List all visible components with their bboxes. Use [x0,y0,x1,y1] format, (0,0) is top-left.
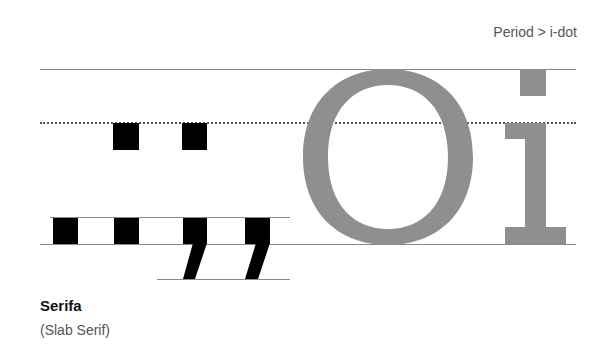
i-stem [525,123,546,244]
typeface-class: (Slab Serif) [40,322,110,338]
typeface-name: Serifa [40,297,82,314]
i-bottom-serif [505,227,566,244]
i-dot [520,69,546,96]
letter-o [0,0,611,360]
